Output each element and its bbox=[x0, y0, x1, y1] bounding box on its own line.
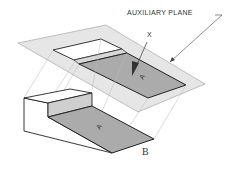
auxiliary-plane-leader bbox=[170, 15, 222, 62]
auxiliary-view-diagram: A A bbox=[0, 0, 240, 177]
auxiliary-plane-label: AUXILIARY PLANE bbox=[127, 9, 193, 16]
figure-caption: B bbox=[142, 146, 149, 157]
view-direction-label: X bbox=[147, 31, 152, 38]
leader-arrowhead bbox=[170, 57, 175, 62]
